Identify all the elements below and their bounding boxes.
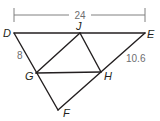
point-h-label: H [104,70,112,82]
triangle-diagram: 24 D E J G H F 8 10.6 [0,0,160,121]
triangle-def [14,33,145,110]
point-g-label: G [25,70,34,82]
segment-jh [80,33,101,72]
segment-df [14,33,58,110]
point-f-label: F [63,107,71,119]
triangle-jgh [36,33,101,73]
point-e-label: E [147,28,155,40]
length-dg-label: 8 [17,50,23,61]
point-j-label: J [75,20,82,32]
segment-gh [36,72,101,73]
length-eh-label: 10.6 [126,53,146,64]
segment-jg [36,33,80,73]
point-d-label: D [3,27,11,39]
